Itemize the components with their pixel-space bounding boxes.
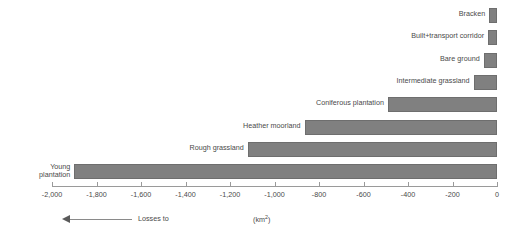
losses-label: Losses to [138, 214, 169, 223]
axis-tick-label: -800 [299, 190, 339, 199]
bar-row: Rough grassland [0, 142, 520, 157]
bar[interactable] [388, 97, 497, 112]
axis-tick-label: -1,400 [166, 190, 206, 199]
bar-category-label: Bracken [0, 10, 485, 18]
bar-row: Heather moorland [0, 120, 520, 135]
bar-category-label: Heather moorland [0, 122, 301, 130]
bar-category-label: Built+transport corridor [0, 32, 484, 40]
arrow-shaft [70, 219, 132, 220]
bar[interactable] [488, 30, 497, 45]
bar-category-label: Youngplantation [18, 163, 70, 179]
axis-unit-label: (km2) [253, 214, 270, 224]
axis-tick [141, 182, 142, 187]
axis-tick-label: -2,000 [32, 190, 72, 199]
axis-tick [319, 182, 320, 187]
axis-tick [186, 182, 187, 187]
bar-row: Intermediate grassland [0, 75, 520, 90]
axis-tick [497, 182, 498, 187]
axis-tick [275, 182, 276, 187]
bar-category-label: Intermediate grassland [0, 77, 470, 85]
axis-tick [52, 182, 53, 187]
bar-category-label: Coniferous plantation [0, 99, 384, 107]
axis-tick [230, 182, 231, 187]
axis-tick-label: -1,000 [255, 190, 295, 199]
axis-tick [97, 182, 98, 187]
left-arrow-icon [62, 215, 70, 223]
bar[interactable] [474, 75, 497, 90]
axis-tick-label: -1,800 [77, 190, 117, 199]
bar-row: Coniferous plantation [0, 97, 520, 112]
axis-tick-label: -1,600 [121, 190, 161, 199]
axis-tick [408, 182, 409, 187]
bar-category-label: Bare ground [0, 55, 480, 63]
axis-tick-label: -400 [388, 190, 428, 199]
bar-row: Built+transport corridor [0, 30, 520, 45]
axis-tick-label: 0 [477, 190, 517, 199]
bar[interactable] [305, 120, 497, 135]
bar-row: Bare ground [0, 53, 520, 68]
axis-tick [453, 182, 454, 187]
bar[interactable] [248, 142, 497, 157]
axis-tick-label: -200 [433, 190, 473, 199]
bar-row: Bracken [0, 8, 520, 23]
axis-tick [364, 182, 365, 187]
bar[interactable] [489, 8, 497, 23]
bar[interactable] [74, 164, 497, 179]
bar-row: Youngplantation [0, 164, 520, 179]
bar-chart: BrackenBuilt+transport corridorBare grou… [0, 0, 520, 233]
axis-tick-label: -600 [344, 190, 384, 199]
bar[interactable] [484, 53, 497, 68]
axis-tick-label: -1,200 [210, 190, 250, 199]
bar-category-label: Rough grassland [0, 144, 244, 152]
